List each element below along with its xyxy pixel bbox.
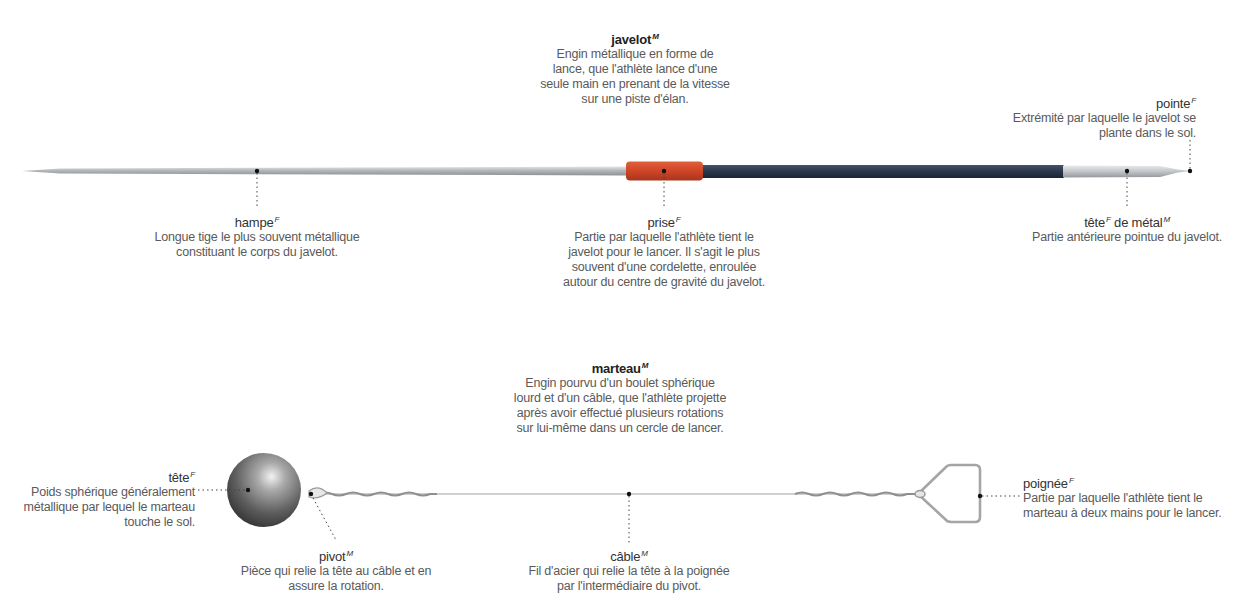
tete-de-metal-label: têteF de métalM Partie antérieure pointu…	[1010, 212, 1244, 245]
poignee-description-line: marteau à deux mains pour le lancer.	[1023, 506, 1245, 521]
tete-description-line: touche le sol.	[0, 515, 195, 530]
pointe-description-line: plante dans le sol.	[950, 126, 1196, 141]
pointe-term: pointe	[1156, 96, 1190, 111]
prise-description-line: souvent d'une cordelette, enroulée	[524, 260, 804, 275]
pivot-label: pivotM Pièce qui relie la tête au câble …	[216, 546, 456, 594]
javelin-description-line: sur une piste d'élan.	[490, 92, 780, 107]
gender-marker: M	[652, 32, 658, 41]
hampe-description-line: Longue tige le plus souvent métallique	[117, 230, 397, 245]
pivot-term: pivot	[319, 549, 345, 564]
tete-description-line: Poids sphérique généralement	[0, 485, 195, 500]
de-metal-term: de métal	[1111, 215, 1163, 230]
hampe-description-line: constituant le corps du javelot.	[117, 245, 397, 260]
poignee-description-line: Partie par laquelle l'athlète tient le	[1023, 491, 1245, 506]
gender-marker: M	[347, 549, 353, 558]
cable-label: câbleM Fil d'acier qui relie la tête à l…	[494, 546, 764, 594]
javelin-description-line: lance, que l'athlète lance d'une	[490, 62, 780, 77]
gender-marker: F	[275, 215, 280, 224]
tete-label: têteF Poids sphérique généralement métal…	[0, 467, 195, 530]
hammer-term: marteau	[592, 361, 641, 376]
poignee-term: poignée	[1023, 476, 1068, 491]
prise-label: priseF Partie par laquelle l'athlète tie…	[524, 212, 804, 290]
gender-marker: M	[642, 361, 648, 370]
pointe-description-line: Extrémité par laquelle le javelot se	[950, 111, 1196, 126]
tete-de-metal-description-line: Partie antérieure pointue du javelot.	[1010, 230, 1244, 245]
hammer-description-line: sur lui-même dans un cercle de lancer.	[470, 421, 770, 436]
gender-marker: M	[641, 549, 647, 558]
javelin-title-label: javelotM Engin métallique en forme de la…	[490, 29, 780, 107]
gender-marker: M	[1163, 215, 1169, 224]
pivot-description-line: Pièce qui relie la tête au câble et en	[216, 564, 456, 579]
diagram-stage: javelotM Engin métallique en forme de la…	[0, 0, 1245, 612]
prise-description-line: Partie par laquelle l'athlète tient le	[524, 230, 804, 245]
tete-ball-term: tête	[168, 470, 189, 485]
javelin-term: javelot	[611, 32, 651, 47]
pointe-label: pointeF Extrémité par laquelle le javelo…	[950, 93, 1196, 141]
gender-marker: F	[676, 215, 681, 224]
hammer-title-label: marteauM Engin pourvu d'un boulet sphéri…	[470, 358, 770, 436]
cable-description-line: Fil d'acier qui relie la tête à la poign…	[494, 564, 764, 579]
javelin-description-line: seule main en prenant de la vitesse	[490, 77, 780, 92]
cable-description-line: par l'intermédiaire du pivot.	[494, 579, 764, 594]
hammer-callout-lines	[198, 490, 1022, 544]
pivot-description-line: assure la rotation.	[216, 579, 456, 594]
hammer-description-line: après avoir effectué plusieurs rotations	[470, 406, 770, 421]
javelin-illustration	[22, 162, 1191, 181]
hammer-description-line: Engin pourvu d'un boulet sphérique	[470, 376, 770, 391]
gender-marker: F	[1069, 476, 1074, 485]
poignee-label: poignéeF Partie par laquelle l'athlète t…	[1023, 473, 1245, 521]
javelin-description-line: Engin métallique en forme de	[490, 47, 780, 62]
hammer-illustration	[227, 453, 980, 527]
gender-marker: F	[1191, 96, 1196, 105]
cable-term: câble	[610, 549, 640, 564]
gender-marker: F	[190, 470, 195, 479]
hampe-label: hampeF Longue tige le plus souvent métal…	[117, 212, 397, 260]
prise-description-line: autour du centre de gravité du javelot.	[524, 275, 804, 290]
hampe-term: hampe	[235, 215, 274, 230]
tete-description-line: métallique par lequel le marteau	[0, 500, 195, 515]
hammer-description-line: lourd et d'un câble, que l'athlète proje…	[470, 391, 770, 406]
prise-description-line: javelot pour le lancer. Il s'agit le plu…	[524, 245, 804, 260]
prise-term: prise	[648, 215, 675, 230]
tete-term: tête	[1084, 215, 1105, 230]
